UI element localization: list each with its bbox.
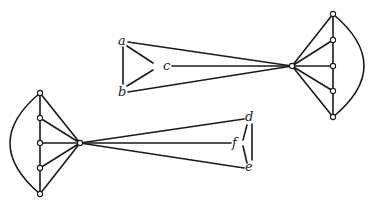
node: [37, 90, 42, 95]
node: [330, 63, 335, 68]
node: [37, 165, 42, 170]
upper-triangle-edges: [123, 42, 292, 92]
node: [330, 88, 335, 93]
node: [330, 11, 335, 16]
node: [37, 115, 42, 120]
left-hub-node: [77, 140, 82, 145]
lower-triangle-edges: [80, 119, 252, 168]
label-a: a: [118, 33, 126, 48]
label-e: e: [245, 159, 253, 174]
right-hub-node: [289, 63, 294, 68]
label-f: f: [231, 135, 239, 150]
node: [330, 114, 335, 119]
label-c: c: [163, 58, 171, 73]
right-fan-edges: [292, 14, 364, 117]
left-fan-edges: [10, 93, 80, 194]
graph-diagram: a b c d e f: [0, 0, 374, 207]
node: [330, 37, 335, 42]
label-b: b: [118, 84, 126, 99]
label-d: d: [245, 109, 253, 124]
node: [37, 140, 42, 145]
node: [37, 191, 42, 196]
